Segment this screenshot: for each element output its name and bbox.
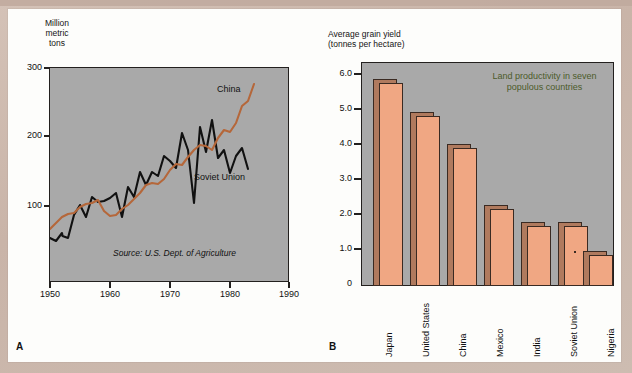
- bar-label-nigeria: Nigeria: [606, 328, 616, 357]
- panel-b-ytick-mark-1: [354, 248, 361, 250]
- panel-b-ytick-5: 5.0: [320, 104, 352, 113]
- bar-label-china: China: [458, 333, 468, 357]
- series-label-soviet-union: Soviet Union: [194, 172, 245, 182]
- panel-a-xtick-1980: 1980: [214, 290, 246, 299]
- panel-a-ytick-100: 100: [8, 201, 42, 210]
- panel-b-ytick-2: 2.0: [320, 209, 352, 218]
- panel-a-xtick-mark-1970: [169, 282, 171, 288]
- panel-a-xtick-mark-1950: [49, 282, 51, 288]
- panel-b-ytick-3: 3.0: [320, 174, 352, 183]
- bar-mexico[interactable]: [490, 209, 514, 286]
- bar-shadow-nigeria: [574, 251, 576, 253]
- panel-b-ytick-mark-6: [354, 73, 361, 75]
- bar-japan[interactable]: [379, 83, 403, 286]
- bar-india[interactable]: [527, 226, 551, 286]
- panel-a: Million metric tons 300 200 100 China So…: [0, 0, 316, 373]
- panel-a-plot-area: China Soviet Union Source: U.S. Dept. of…: [49, 67, 289, 282]
- bar-china[interactable]: [453, 148, 477, 286]
- panel-b-ytick-4: 4.0: [320, 139, 352, 148]
- panel-b-ytick-0: 0: [320, 279, 352, 288]
- panel-a-xtick-mark-1980: [229, 282, 231, 288]
- panel-a-ytick-200: 200: [8, 131, 42, 140]
- panel-b-ytick-mark-4: [354, 143, 361, 145]
- bar-label-united-states: United States: [421, 303, 431, 357]
- panel-b-letter: B: [329, 341, 336, 352]
- bar-nigeria[interactable]: [589, 255, 613, 286]
- panel-b-ytick-mark-5: [354, 108, 361, 110]
- panel-a-source-note: Source: U.S. Dept. of Agriculture: [113, 248, 236, 258]
- bar-label-mexico: Mexico: [495, 328, 505, 357]
- bar-label-japan: Japan: [384, 332, 394, 357]
- panel-a-xtick-1950: 1950: [34, 290, 66, 299]
- bar-label-soviet-union: Soviet Union: [569, 306, 579, 357]
- series-label-china: China: [217, 84, 241, 94]
- panel-b: Average grain yield (tonnes per hectare)…: [316, 0, 632, 373]
- panel-a-letter: A: [16, 341, 23, 352]
- panel-a-y-axis-title: Million metric tons: [22, 18, 92, 48]
- panel-b-ytick-mark-2: [354, 213, 361, 215]
- panel-b-plot-area: Land productivity in seven populous coun…: [361, 62, 614, 286]
- panel-b-ytick-mark-3: [354, 178, 361, 180]
- panel-b-ytick-1: 1.0: [320, 244, 352, 253]
- bar-united-states[interactable]: [416, 116, 440, 286]
- panel-a-xtick-mark-1990: [288, 282, 290, 288]
- panel-b-annotation: Land productivity in seven populous coun…: [472, 71, 617, 93]
- panel-a-xtick-1960: 1960: [94, 290, 126, 299]
- panel-b-y-axis-title: Average grain yield (tonnes per hectare): [328, 29, 488, 49]
- panel-b-ytick-6: 6.0: [320, 69, 352, 78]
- series-china-line: [50, 84, 254, 229]
- figure-root: Million metric tons 300 200 100 China So…: [0, 0, 632, 373]
- bar-label-india: India: [532, 337, 542, 357]
- panel-a-xtick-mark-1960: [109, 282, 111, 288]
- panel-a-xtick-1990: 1990: [273, 290, 305, 299]
- panel-a-ytick-300: 300: [8, 63, 42, 72]
- panel-a-xtick-1970: 1970: [154, 290, 186, 299]
